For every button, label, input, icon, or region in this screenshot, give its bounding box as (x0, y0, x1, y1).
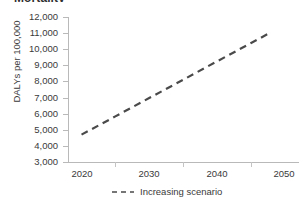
y-axis-spine (68, 17, 69, 163)
y-tick-label: 3,000 (12, 156, 58, 167)
chart-figure: Mortality DALYs per 100,000 12,00011,000… (0, 0, 306, 203)
y-tick-mark (63, 81, 68, 82)
y-tick-mark (63, 65, 68, 66)
y-tick-label: 4,000 (12, 140, 58, 151)
x-tick-label: 2030 (129, 168, 169, 179)
x-tick-label: 2040 (197, 168, 237, 179)
chart-title-fragment: Mortality (14, 0, 65, 2)
y-tick-mark (63, 162, 68, 163)
y-tick-label: 5,000 (12, 124, 58, 135)
y-tick-mark (63, 98, 68, 99)
y-tick-mark (63, 49, 68, 50)
x-tick-mark (115, 162, 116, 167)
legend-line-swatch (112, 188, 134, 196)
x-tick-mark (251, 162, 252, 167)
x-tick-label: 2020 (62, 168, 102, 179)
y-tick-label: 10,000 (12, 43, 58, 54)
series-line-increasing-scenario (82, 32, 271, 134)
y-tick-label: 8,000 (12, 75, 58, 86)
y-tick-mark (63, 146, 68, 147)
x-tick-mark (183, 162, 184, 167)
y-tick-mark (63, 17, 68, 18)
x-tick-label: 2050 (264, 168, 304, 179)
y-tick-mark (63, 33, 68, 34)
y-tick-label: 12,000 (12, 11, 58, 22)
y-tick-label: 7,000 (12, 92, 58, 103)
legend-label-increasing-scenario: Increasing scenario (140, 186, 222, 197)
y-tick-label: 6,000 (12, 108, 58, 119)
chart-legend: Increasing scenario (112, 186, 222, 197)
y-tick-label: 11,000 (12, 27, 58, 38)
y-tick-mark (63, 130, 68, 131)
y-tick-mark (63, 114, 68, 115)
y-tick-label: 9,000 (12, 59, 58, 70)
